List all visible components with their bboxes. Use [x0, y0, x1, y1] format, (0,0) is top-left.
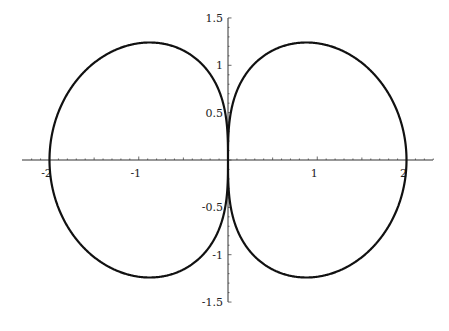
y-tick-label: -0.5 [202, 201, 223, 214]
y-tick-label: -1 [212, 249, 223, 262]
x-tick-label: -1 [130, 167, 141, 180]
y-tick-label: -1.5 [202, 296, 223, 309]
polar-curve-plot: -2-1121.510.5-0.5-1-1.5 [0, 0, 449, 331]
y-tick-label: 1.5 [206, 12, 224, 25]
y-tick-label: 1 [216, 59, 223, 72]
y-tick-label: 0.5 [206, 107, 224, 120]
x-tick-label: 1 [311, 167, 318, 180]
